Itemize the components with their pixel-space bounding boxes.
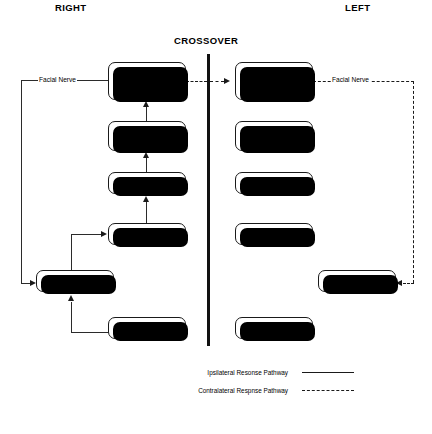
- node-label: Auditory Nerve: [121, 179, 173, 188]
- node-right-superior-olivary-complex[interactable]: SuperiorOlivaryComplex: [108, 62, 186, 100]
- legend-label-contralateral: Contralateral Respnse Pathway: [142, 387, 288, 394]
- node-label: Middle Ear: [55, 277, 95, 286]
- edge-cochlear-to-soc: [146, 107, 147, 121]
- edge-left-facial-nerve-vertical: [413, 81, 414, 283]
- edge-crossover-left-segment: [210, 81, 224, 82]
- legend-swatch-ipsilateral: [302, 372, 354, 373]
- arrowhead-inner-ear-from-middle: [101, 231, 107, 237]
- label-right-facial-nerve: Facial Nerve: [38, 76, 77, 83]
- arrowhead-left-soc-from-crossover: [224, 78, 230, 84]
- edge-inner-to-auditory: [146, 201, 147, 223]
- node-label: CochlearNucleus: [130, 127, 164, 144]
- node-left-middle-ear[interactable]: Middle Ear: [318, 270, 396, 292]
- node-label: Auditory Nerve: [248, 179, 300, 188]
- legend-swatch-contralateral: [302, 390, 354, 391]
- header-crossover: CROSSOVER: [174, 35, 238, 46]
- node-left-auditory-nerve[interactable]: Auditory Nerve: [235, 172, 313, 194]
- node-label: Outer Ear: [129, 324, 165, 333]
- node-left-outer-ear[interactable]: Outer Ear: [235, 317, 313, 339]
- node-left-inner-ear[interactable]: Inner Ear: [235, 223, 313, 245]
- node-right-middle-ear[interactable]: Middle Ear: [36, 270, 114, 292]
- node-label: Inner Ear: [130, 230, 165, 239]
- node-label: Inner Ear: [257, 230, 292, 239]
- node-label: SuperiorOlivaryComplex: [130, 68, 164, 94]
- node-label: Middle Ear: [337, 277, 377, 286]
- edge-right-facial-nerve-vertical: [21, 80, 22, 283]
- node-label: CochlearNucleus: [257, 127, 291, 144]
- node-left-cochlear-nucleus[interactable]: CochlearNucleus: [235, 121, 313, 151]
- edge-left-facial-nerve-into-middle: [403, 283, 414, 284]
- arrowhead-auditory-nerve-from-inner: [143, 196, 149, 202]
- header-right: RIGHT: [55, 2, 87, 13]
- diagram-canvas: RIGHT LEFT CROSSOVER SuperiorOlivaryComp…: [0, 0, 432, 434]
- node-label: Outer Ear: [256, 324, 292, 333]
- legend-row-contralateral: Contralateral Respnse Pathway: [142, 387, 354, 394]
- node-right-inner-ear[interactable]: Inner Ear: [108, 223, 186, 245]
- crossover-midline: [207, 54, 210, 346]
- arrowhead-middle-ear-from-outer: [68, 295, 74, 301]
- edge-auditory-to-cochlear: [146, 157, 147, 172]
- edge-middle-to-inner-horizontal: [71, 234, 102, 235]
- legend-row-ipsilateral: Ipsilateral Resonse Pathway: [142, 369, 354, 376]
- edge-crossover-right-segment: [186, 81, 207, 82]
- edge-outer-to-middle-horizontal: [71, 332, 109, 333]
- node-right-auditory-nerve[interactable]: Auditory Nerve: [108, 172, 186, 194]
- header-left: LEFT: [345, 2, 370, 13]
- node-left-superior-olivary-complex[interactable]: SuperiorOlivaryComplex: [235, 62, 313, 100]
- legend-label-ipsilateral: Ipsilateral Resonse Pathway: [142, 369, 288, 376]
- edge-middle-to-inner-vertical: [71, 234, 72, 271]
- edge-outer-to-middle-vertical: [71, 302, 72, 333]
- label-left-facial-nerve: Facial Nerve: [331, 76, 370, 83]
- node-right-cochlear-nucleus[interactable]: CochlearNucleus: [108, 121, 186, 151]
- node-right-outer-ear[interactable]: Outer Ear: [108, 317, 186, 339]
- node-label: SuperiorOlivaryComplex: [257, 68, 291, 94]
